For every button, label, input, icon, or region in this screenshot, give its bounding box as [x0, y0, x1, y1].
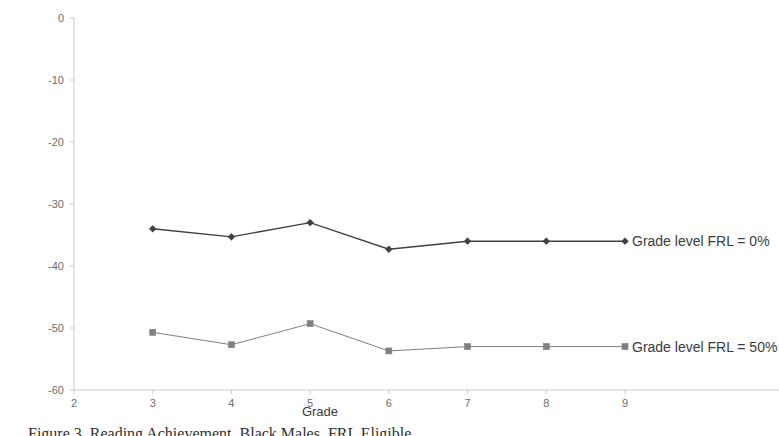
series-line-1	[153, 324, 547, 351]
figure-caption: Figure 3. Reading Achievement, Black Mal…	[0, 424, 779, 436]
data-point-marker	[543, 344, 549, 350]
y-tick-label: -20	[20, 136, 64, 148]
data-point-marker	[543, 238, 550, 245]
y-tick-label: -30	[20, 198, 64, 210]
legend-label-1: Grade level FRL = 50%	[632, 339, 777, 355]
y-tick-label: -10	[20, 74, 64, 86]
y-tick-label: -60	[20, 384, 64, 396]
data-point-marker	[228, 342, 234, 348]
data-point-marker	[464, 238, 471, 245]
chart-figure: Cumulative Effect on Achievement 0-10-20…	[0, 0, 779, 436]
y-tick-label: 0	[20, 12, 64, 24]
series-line-0	[153, 223, 547, 250]
data-point-marker	[307, 219, 314, 226]
plot-area	[0, 0, 779, 436]
legend-label-0: Grade level FRL = 0%	[632, 233, 770, 249]
legend-marker-0	[622, 238, 629, 245]
data-point-marker	[149, 225, 156, 232]
data-point-marker	[386, 348, 392, 354]
data-point-marker	[150, 329, 156, 335]
data-point-marker	[307, 321, 313, 327]
data-point-marker	[385, 246, 392, 253]
x-axis-title: Grade	[0, 404, 640, 419]
legend-marker-1	[622, 344, 628, 350]
y-tick-label: -50	[20, 322, 64, 334]
data-point-marker	[228, 233, 235, 240]
data-point-marker	[465, 344, 471, 350]
y-tick-label: -40	[20, 260, 64, 272]
